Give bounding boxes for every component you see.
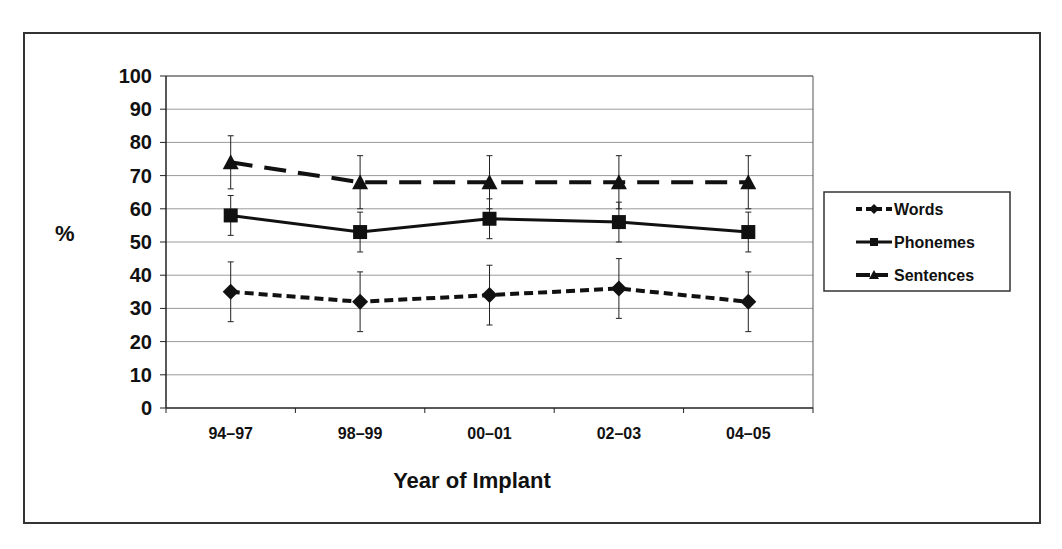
legend-label: Sentences [894,267,974,284]
gridlines [166,76,813,408]
x-category-label: 02–03 [597,425,642,442]
square-marker-icon [353,225,367,239]
x-category-label: 98–99 [338,425,383,442]
y-tick-label: 50 [130,231,152,253]
legend-label: Phonemes [894,234,975,251]
diamond-marker-icon [611,280,627,296]
y-tick-label: 80 [130,131,152,153]
x-axis-label: Year of Implant [393,468,551,493]
series-words [223,259,757,332]
y-tick-label: 20 [130,331,152,353]
line-chart: 0102030405060708090100 94–9798–9900–0102… [0,0,1062,549]
y-axis-ticks: 0102030405060708090100 [119,65,166,419]
diamond-marker-icon [223,284,239,300]
legend: WordsPhonemesSentences [824,192,1010,291]
y-tick-label: 40 [130,264,152,286]
y-tick-label: 90 [130,98,152,120]
x-category-label: 04–05 [726,425,771,442]
diamond-marker-icon [740,294,756,310]
square-marker-icon [224,208,238,222]
square-marker-icon [741,225,755,239]
x-axis: 94–9798–9900–0102–0304–05 [166,76,813,442]
y-tick-label: 0 [141,397,152,419]
square-marker-icon [483,212,497,226]
legend-label: Words [894,201,944,218]
y-tick-label: 70 [130,165,152,187]
y-tick-label: 30 [130,297,152,319]
y-tick-label: 100 [119,65,152,87]
y-tick-label: 10 [130,364,152,386]
diamond-marker-icon [352,294,368,310]
diamond-marker-icon [482,287,498,303]
series-group [223,136,757,332]
series-sentences [223,136,757,209]
square-marker-icon [612,215,626,229]
x-category-label: 94–97 [208,425,253,442]
y-axis-label: % [55,221,75,246]
square-marker-icon [870,238,878,246]
x-category-label: 00–01 [467,425,512,442]
y-tick-label: 60 [130,198,152,220]
